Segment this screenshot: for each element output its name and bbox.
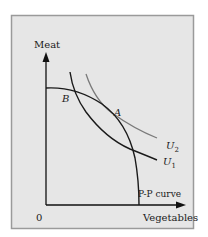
point-b-label: B (61, 93, 69, 104)
origin-label: 0 (36, 212, 42, 223)
production-possibility-diagram: Meat Vegetables 0 B A U2 U1 P-P curve (0, 0, 208, 237)
pp-curve-label: P-P curve (138, 189, 181, 199)
point-a-label: A (113, 107, 121, 118)
x-axis-label: Vegetables (142, 212, 198, 223)
y-axis-label: Meat (34, 39, 60, 50)
